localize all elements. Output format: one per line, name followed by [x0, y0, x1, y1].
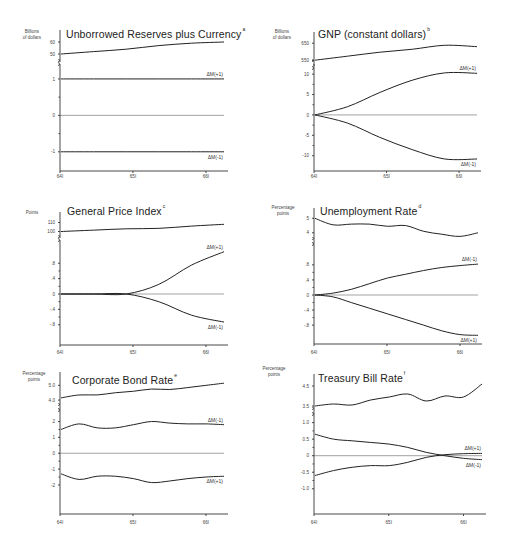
y-tick-label: -1.0: [301, 486, 309, 491]
y-tick-label: .8: [305, 262, 309, 267]
x-tick-label: 65I: [386, 520, 392, 525]
y-tick-label: 0: [306, 113, 309, 118]
axes: 506010-164I65I66I: [50, 30, 228, 179]
axes: 5506501050-5-1064I65I66I: [301, 32, 481, 179]
y-tick-label: 10: [304, 72, 310, 77]
y-tick-label-top: 4.5: [303, 384, 310, 389]
response-series-line: [61, 421, 224, 429]
y-tick-label: 0: [52, 451, 55, 456]
x-tick-label: 64I: [311, 350, 317, 355]
axis-break-icon: [59, 59, 60, 66]
series-label: ΔM(+1): [206, 478, 223, 484]
x-tick-label: 65I: [384, 350, 390, 355]
x-tick-label: 66I: [203, 520, 209, 525]
series-label: ΔM(-1): [461, 161, 477, 167]
y-tick-label: -.4: [50, 307, 56, 312]
response-series-line: [315, 453, 482, 475]
y-tick-label: -.4: [304, 308, 310, 313]
level-series-line: [315, 218, 478, 236]
level-series-line: [61, 224, 224, 231]
series-label: ΔM(+1): [460, 337, 477, 343]
y-tick-label: -5: [305, 133, 310, 138]
y-tick-label: -0.5: [301, 470, 309, 475]
y-tick-label-top: 110: [48, 220, 56, 225]
series-label: ΔM(-1): [208, 324, 224, 330]
level-series-line: [315, 384, 482, 406]
level-series-line: [315, 45, 477, 60]
y-tick-label: -1: [51, 149, 56, 154]
y-tick-label-top: 550: [301, 58, 309, 63]
axes: 45.8.40-.4-.864I65I66I: [304, 208, 482, 355]
series-label: ΔM(+1): [206, 71, 223, 77]
y-tick-label: 0: [52, 113, 55, 118]
y-tick-label: -.8: [50, 322, 56, 327]
y-tick-label: 5: [306, 92, 309, 97]
y-tick-label-top: 5: [306, 216, 309, 221]
chart-svg: 4.05.0210-1-264I65I66IΔM(-1)ΔM(+1): [0, 356, 250, 536]
response-series-line: [61, 252, 224, 295]
x-tick-label: 64I: [57, 520, 63, 525]
x-tick-label: 65I: [130, 520, 136, 525]
y-tick-label: 0.5: [303, 437, 310, 442]
y-tick-label: 1: [52, 435, 55, 440]
x-tick-label: 66I: [460, 520, 466, 525]
panel-gnp: Billions of dollars GNP (constant dollar…: [252, 0, 502, 180]
y-tick-label-top: 50: [50, 52, 56, 57]
y-tick-label: .4: [51, 276, 55, 281]
x-tick-label: 64I: [311, 520, 317, 525]
series-label: ΔM(-1): [208, 417, 224, 423]
series-label: ΔM(-1): [466, 462, 482, 468]
axes: 100110.8.40-.4-.864I65I66I: [47, 212, 228, 355]
y-tick-label: -2: [51, 483, 56, 488]
y-tick-label: 0: [52, 292, 55, 297]
x-tick-label: 66I: [203, 350, 209, 355]
x-tick-label: 66I: [457, 350, 463, 355]
response-series-line: [315, 72, 477, 114]
y-tick-label-top: 4.0: [49, 398, 56, 403]
response-series-line: [315, 295, 478, 335]
x-tick-label: 64I: [57, 350, 63, 355]
y-tick-label-top: 100: [47, 229, 55, 234]
response-series-line: [61, 474, 224, 483]
y-tick-label: .8: [51, 261, 55, 266]
chart-svg: 3.54.51.00.50-0.5-1.064I65I66IΔM(+1)ΔM(-…: [252, 356, 502, 536]
response-series-line: [315, 264, 478, 295]
series-label: ΔM(-1): [462, 256, 478, 262]
axis-break-icon: [313, 407, 314, 416]
y-tick-label: 1: [52, 77, 55, 82]
level-series-line: [61, 383, 224, 398]
axes: 3.54.51.00.50-0.5-1.064I65I66I: [301, 374, 486, 525]
panel-treasury-bill-rate: Percentage points Treasury Bill Ratef 3.…: [252, 356, 502, 536]
panel-unemployment-rate: Percentage points Unemployment Rated 45.…: [252, 178, 502, 358]
y-tick-label: 2: [52, 419, 55, 424]
y-tick-label: -10: [302, 153, 309, 158]
chart-svg: 5506501050-5-1064I65I66IΔM(+1)ΔM(-1): [252, 0, 502, 180]
axis-break-icon: [59, 235, 60, 242]
series-label: ΔM(+1): [206, 244, 223, 250]
axis-break-icon: [59, 403, 60, 412]
level-series-line: [61, 42, 224, 54]
series-label: ΔM(+1): [459, 65, 476, 71]
y-tick-label-top: 60: [50, 40, 56, 45]
series-label: ΔM(-1): [208, 154, 224, 160]
y-tick-label: 0: [306, 453, 309, 458]
panel-corporate-bond-rate: Percentage points Corporate Bond Ratee 4…: [0, 356, 250, 536]
y-tick-label-top: 650: [301, 41, 309, 46]
y-tick-label: 1.0: [303, 420, 310, 425]
y-tick-label: 0: [306, 293, 309, 298]
y-tick-label-top: 5.0: [49, 383, 56, 388]
y-tick-label: -.8: [304, 323, 310, 328]
y-tick-label-top: 3.5: [303, 404, 310, 409]
y-tick-label-top: 4: [306, 230, 309, 235]
response-series-line: [315, 115, 477, 160]
series-label: ΔM(+1): [464, 445, 481, 451]
y-tick-label: .4: [305, 278, 309, 283]
chart-svg: 506010-164I65I66IΔM(+1)ΔM(-1): [0, 0, 250, 180]
panel-general-price-index: Points General Price Indexc 100110.8.40-…: [0, 178, 250, 358]
axis-break-icon: [313, 237, 314, 246]
x-tick-label: 65I: [130, 350, 136, 355]
chart-svg: 45.8.40-.4-.864I65I66IΔM(-1)ΔM(+1): [252, 178, 502, 358]
panel-unborrowed-reserves: Billions of dollars Unborrowed Reserves …: [0, 0, 250, 180]
y-tick-label: -1: [51, 467, 56, 472]
chart-svg: 100110.8.40-.4-.864I65I66IΔM(+1)ΔM(-1): [0, 178, 250, 358]
